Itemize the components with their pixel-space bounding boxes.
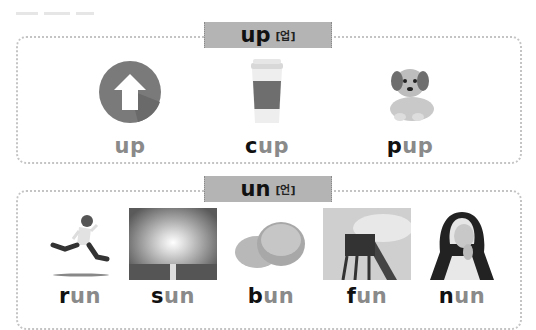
- tag-pronunciation: [언]: [275, 181, 295, 197]
- word-card-up: up: [95, 58, 165, 157]
- word-card-pup: pup: [372, 58, 448, 157]
- word-label: up: [115, 136, 146, 157]
- puppy-image: [380, 58, 440, 126]
- bun-image: [231, 208, 311, 280]
- cropped-heading-text: [16, 0, 116, 4]
- running-boy-image: [45, 208, 115, 280]
- word-card-sun: sun: [128, 208, 218, 307]
- word-card-fun: fun: [322, 208, 412, 307]
- tag-word: up: [240, 25, 270, 46]
- word-card-cup: cup: [232, 58, 302, 157]
- word-label: cup: [245, 136, 289, 157]
- tag-pronunciation: [업]: [275, 27, 295, 43]
- word-card-run: run: [40, 208, 120, 307]
- word-label: fun: [347, 286, 388, 307]
- nun-image: [426, 208, 498, 280]
- word-label: run: [59, 286, 101, 307]
- tag-word: un: [241, 179, 271, 200]
- word-card-bun: bun: [226, 208, 316, 307]
- word-label: bun: [248, 286, 294, 307]
- word-card-nun: nun: [422, 208, 502, 307]
- section-up-tag: up [업]: [204, 22, 332, 48]
- word-label: sun: [151, 286, 195, 307]
- word-label: nun: [439, 286, 485, 307]
- roller-coaster-image: [323, 208, 411, 280]
- up-arrow-icon: [98, 58, 162, 126]
- section-un-tag: un [언]: [204, 176, 332, 202]
- sun-image: [129, 208, 217, 280]
- coffee-cup-image: [249, 58, 285, 126]
- word-label: pup: [387, 136, 434, 157]
